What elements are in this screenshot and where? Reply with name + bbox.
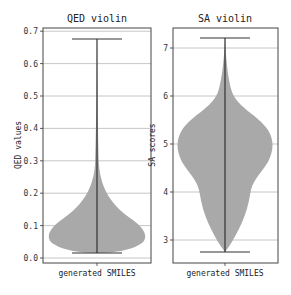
- qed-ytick: 0.4: [24, 124, 39, 133]
- qed-ytick: 0.3: [24, 157, 39, 166]
- qed-plot-title: QED violin: [67, 13, 127, 24]
- qed-violin-plot: QED violin 0: [14, 13, 151, 278]
- qed-ytick: 0.6: [24, 60, 39, 69]
- sa-y-axis-label: SA scores: [148, 123, 157, 167]
- violin-figure: QED violin 0: [0, 0, 291, 295]
- qed-y-axis-label: QED values: [14, 121, 23, 169]
- sa-ytick: 3: [163, 236, 168, 245]
- qed-ytick: 0.2: [24, 189, 39, 198]
- qed-ytick: 0.7: [24, 27, 39, 36]
- sa-ytick: 4: [163, 188, 168, 197]
- sa-ytick: 5: [163, 140, 168, 149]
- sa-ytick: 7: [163, 44, 168, 53]
- sa-plot-title: SA violin: [198, 13, 252, 24]
- qed-ytick: 0.0: [24, 254, 39, 263]
- qed-ytick: 0.1: [24, 222, 39, 231]
- sa-x-tick-label: generated SMILES: [186, 269, 263, 278]
- qed-y-axis: 0.0 0.1 0.2 0.3 0.4 0.5 0.6 0.7: [24, 27, 43, 263]
- qed-x-tick-label: generated SMILES: [58, 269, 135, 278]
- sa-violin-plot: SA violin 3 4 5 6 7 SA scores gener: [148, 13, 278, 278]
- qed-ytick: 0.5: [24, 92, 39, 101]
- sa-ytick: 6: [163, 92, 168, 101]
- sa-y-axis: 3 4 5 6 7: [163, 44, 173, 245]
